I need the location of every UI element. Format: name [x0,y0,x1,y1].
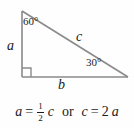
equation-equals-2: = [91,104,99,120]
equation-fraction-var: c [48,104,54,120]
equation-coefficient: 2 [102,104,109,120]
angle-label-60: 60° [23,16,38,27]
equation-conjunction: or [62,104,74,120]
equation-caption: a = 1 2 c or c = 2a [0,96,134,128]
fraction-denominator: 2 [37,112,44,123]
fraction-numerator: 1 [37,102,44,112]
geometry-figure: a b c 60° 30° a = 1 2 c or c = 2a [0,0,134,128]
equation-rhs-var: c [82,104,88,120]
triangle-diagram [0,0,134,96]
equation-lhs-var: a [15,104,22,120]
equation-equals: = [25,104,33,120]
equation-fraction-one-half: 1 2 [37,102,44,123]
angle-label-30: 30° [86,57,101,68]
side-label-a: a [7,39,14,53]
side-label-b: b [58,78,65,92]
right-angle-marker-icon [22,68,31,77]
side-label-c: c [76,30,82,44]
equation-expression: a = 1 2 c or c = 2a [15,102,118,123]
equation-rhs-term-var: a [112,104,119,120]
